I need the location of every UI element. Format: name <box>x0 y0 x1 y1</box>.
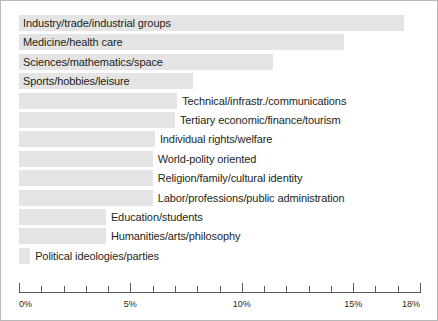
x-axis-tick-label: 15% <box>344 299 362 309</box>
bar-category-label: Tertiary economic/finance/tourism <box>180 112 341 128</box>
bar-category-label: Education/students <box>111 209 203 225</box>
x-axis-minor-tick <box>220 286 221 293</box>
x-axis-minor-tick <box>331 286 332 293</box>
bar-category-label: Individual rights/welfare <box>160 131 272 147</box>
x-axis-major-tick <box>420 283 421 293</box>
bar-category-label: Humanities/arts/philosophy <box>111 228 240 244</box>
bar-category-label: Sports/hobbies/leisure <box>23 73 130 89</box>
x-axis-minor-tick <box>286 286 287 293</box>
x-axis-tick-label: 10% <box>233 299 251 309</box>
x-axis-major-tick <box>242 283 243 293</box>
x-axis-minor-tick <box>175 286 176 293</box>
x-axis-tick-label: 5% <box>124 299 137 309</box>
x-axis-major-tick <box>19 283 20 293</box>
x-axis-tick-label: 18% <box>402 299 420 309</box>
bar <box>19 228 106 244</box>
bar-category-label: Medicine/health care <box>23 34 123 50</box>
bar-category-label: Political ideologies/parties <box>35 248 159 264</box>
bar <box>19 170 153 186</box>
bar <box>19 112 175 128</box>
bar-category-label: World-polity oriented <box>158 151 257 167</box>
bar-category-label: Labor/professions/public administration <box>158 190 345 206</box>
x-axis-tick-label: 0% <box>19 299 32 309</box>
bar-category-label: Industry/trade/industrial groups <box>23 15 171 31</box>
plot-area: Industry/trade/industrial groupsMedicine… <box>1 1 438 282</box>
x-axis-minor-tick <box>108 286 109 293</box>
bar <box>19 93 177 109</box>
bar-chart: Industry/trade/industrial groupsMedicine… <box>0 0 438 321</box>
bar <box>19 248 30 264</box>
x-axis-major-tick <box>130 283 131 293</box>
x-axis-minor-tick <box>86 286 87 293</box>
x-axis-minor-tick <box>197 286 198 293</box>
bar-category-label: Sciences/mathematics/space <box>23 54 163 70</box>
bar <box>19 209 106 225</box>
bar-category-label: Religion/family/cultural identity <box>158 170 303 186</box>
bar <box>19 131 155 147</box>
x-axis: 0%5%10%15%18% <box>1 282 438 321</box>
x-axis-minor-tick <box>41 286 42 293</box>
x-axis-major-tick <box>353 283 354 293</box>
x-axis-minor-tick <box>398 286 399 293</box>
x-axis-minor-tick <box>264 286 265 293</box>
bar <box>19 190 153 206</box>
x-axis-minor-tick <box>309 286 310 293</box>
x-axis-minor-tick <box>153 286 154 293</box>
bar-category-label: Technical/infrastr./communications <box>182 93 346 109</box>
bar <box>19 151 153 167</box>
x-axis-minor-tick <box>64 286 65 293</box>
x-axis-minor-tick <box>375 286 376 293</box>
